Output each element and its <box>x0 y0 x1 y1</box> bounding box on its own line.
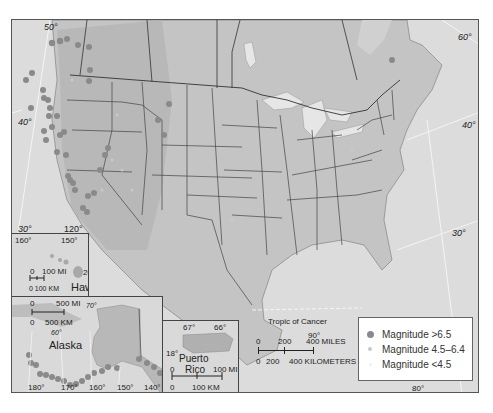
scale-mi-0: 0 <box>30 300 34 308</box>
lat-label: 18° <box>166 350 178 358</box>
scale-bar: 0 200 400 MILES 0 200 400 KILOMETERS <box>256 338 366 378</box>
lon-label: 170° <box>61 384 78 392</box>
scale-km-0: 0 <box>30 319 34 327</box>
lon-label: 150° <box>117 384 134 392</box>
lat-label: 40° <box>462 121 476 130</box>
lat-label: 40° <box>18 118 32 127</box>
lon-label: 80° <box>412 385 424 393</box>
hawaii-inset: 160° 150° 20° 0 100 MI 0 100 KM Hawaii <box>11 233 89 297</box>
medium-quake-dot-icon <box>368 347 372 351</box>
scale-mi-100: 100 MI <box>213 366 237 374</box>
lat-label: 60° <box>458 33 472 42</box>
scale-km: 0 100 KM <box>29 285 59 292</box>
scale-km-0: 0 <box>256 358 260 366</box>
lat-label: 30° <box>452 229 466 238</box>
lon-label: 160° <box>15 237 32 245</box>
lon-label: 67° <box>183 324 195 332</box>
scale-km-200: 200 <box>266 358 279 366</box>
scale-mi-400: 400 MILES <box>306 338 346 346</box>
lat-label: 60° <box>51 329 62 336</box>
tropic-of-cancer-label: Tropic of Cancer <box>268 318 327 326</box>
puerto-rico-label-1: Puerto <box>179 354 208 364</box>
scale-km-500: 500 KM <box>45 319 73 327</box>
legend-label: Magnitude 4.5–6.4 <box>382 344 465 355</box>
hawaii-label: Hawaii <box>71 282 89 293</box>
lon-label: 140° <box>144 384 161 392</box>
alaska-label: Alaska <box>49 340 82 351</box>
scale-mi-100: 100 MI <box>42 268 66 276</box>
puerto-rico-label-2: Rico <box>185 365 205 375</box>
lat-label: 20° <box>83 269 89 277</box>
scale-km-100: 100 KM <box>192 384 220 392</box>
scale-km-0: 0 <box>170 384 174 392</box>
legend-label: Magnitude >6.5 <box>382 329 451 340</box>
scale-mi-0: 0 <box>256 338 260 346</box>
scale-mi-500: 500 MI <box>56 300 80 308</box>
scale-mi-0: 0 <box>30 268 34 276</box>
earthquake-map: 50° 40° 30° 120° 60° 40° 30° Tropic of C… <box>11 19 479 393</box>
large-quake-dot-icon <box>367 331 374 338</box>
small-quake-dot-icon <box>369 363 372 366</box>
lat-label: 70° <box>86 302 97 309</box>
legend: Magnitude >6.5 Magnitude 4.5–6.4 Magnitu… <box>358 317 473 381</box>
puerto-rico-inset: 67° 66° 18° Puerto Rico 0 100 MI 0 100 K… <box>162 320 239 393</box>
legend-item-medium: Magnitude 4.5–6.4 <box>367 342 465 356</box>
scale-mi-0: 0 <box>170 366 174 374</box>
lon-label: 150° <box>61 237 78 245</box>
lon-label: 160° <box>89 384 106 392</box>
legend-item-large: Magnitude >6.5 <box>367 327 451 341</box>
lon-label: 66° <box>214 324 226 332</box>
lon-label: 180° <box>28 384 45 392</box>
lat-label: 50° <box>44 23 58 32</box>
scale-km-400: 400 KILOMETERS <box>289 358 356 366</box>
scale-mi-200: 200 <box>278 338 291 346</box>
alaska-inset: 0 500 MI 0 500 KM 70° 60° Alaska 180° 17… <box>11 296 163 393</box>
legend-label: Magnitude <4.5 <box>382 359 451 370</box>
legend-item-small: Magnitude <4.5 <box>367 357 451 371</box>
